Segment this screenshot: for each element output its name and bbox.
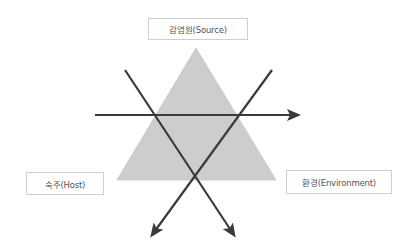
host-label: 숙주(Host) [45, 178, 85, 190]
environment-label: 환경(Environment) [302, 176, 376, 188]
environment-node: 환경(Environment) [286, 170, 392, 194]
host-node: 숙주(Host) [26, 172, 104, 195]
epidemiological-triangle-diagram: 감염원(Source) 숙주(Host) 환경(Environment) [0, 0, 414, 252]
source-label: 감염원(Source) [169, 23, 227, 35]
source-node: 감염원(Source) [148, 18, 248, 40]
